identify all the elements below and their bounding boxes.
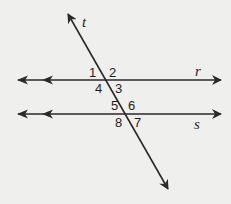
label-t: t: [82, 14, 87, 30]
angle-4: 4: [95, 81, 102, 96]
label-r: r: [195, 63, 201, 79]
angle-7: 7: [134, 115, 141, 130]
angle-1: 1: [89, 65, 96, 80]
label-s: s: [194, 116, 200, 132]
parallel-lines-diagram: t r s 1 2 3 4 5 6 7 8: [0, 0, 231, 204]
angle-8: 8: [115, 115, 122, 130]
angle-2: 2: [109, 65, 116, 80]
angle-6: 6: [128, 98, 135, 113]
angle-5: 5: [111, 98, 118, 113]
angle-3: 3: [115, 81, 122, 96]
